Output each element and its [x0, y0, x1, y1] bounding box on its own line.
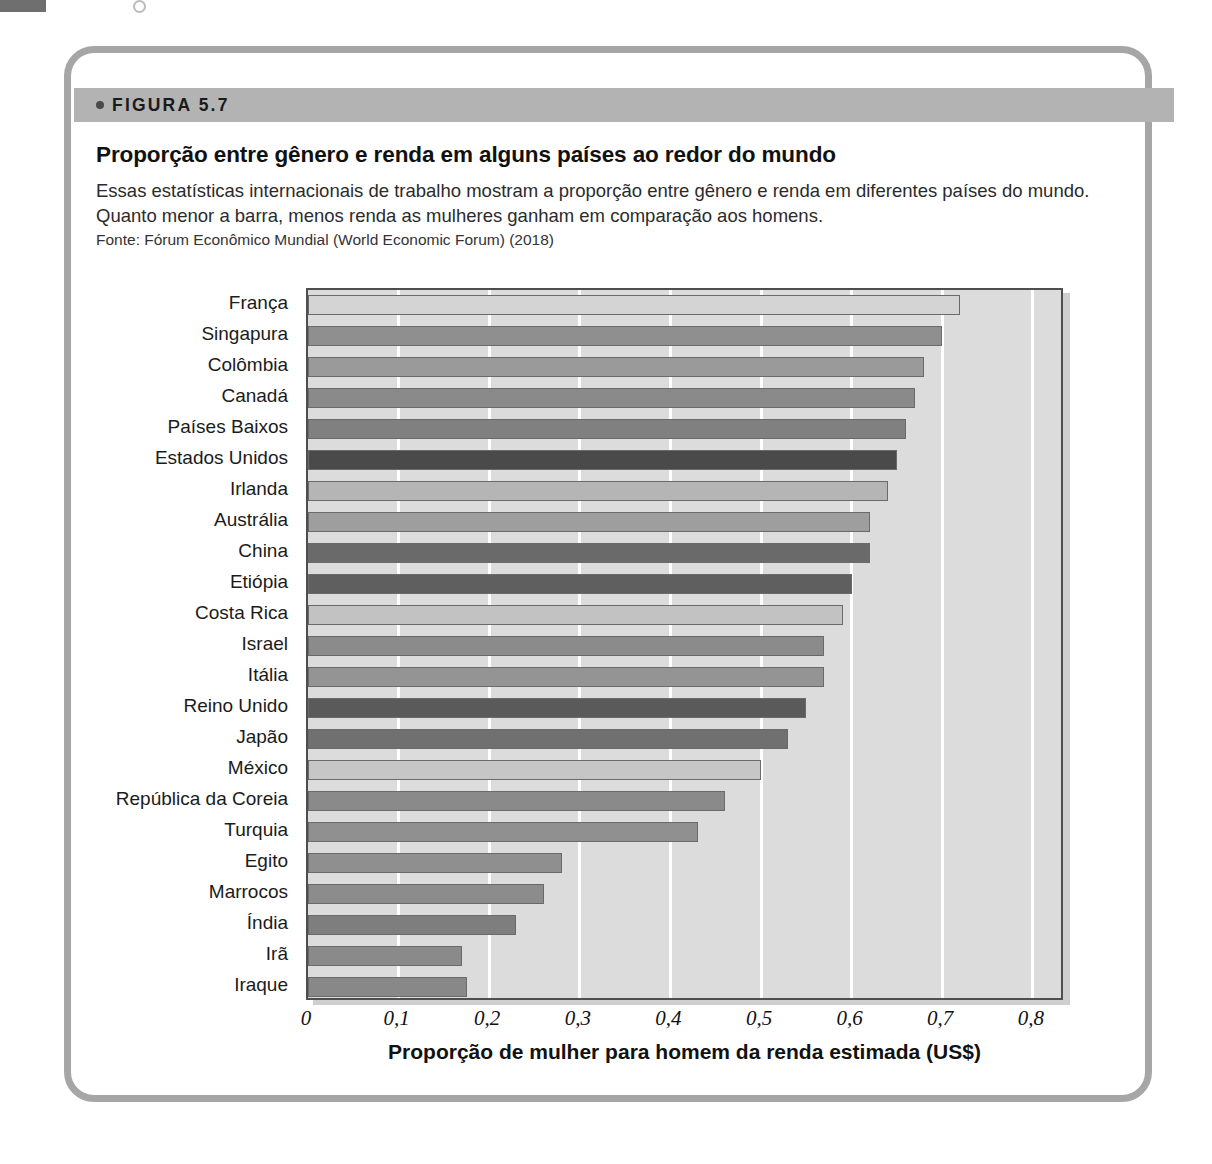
figure-label-band — [74, 88, 1174, 122]
figure-number-label: FIGURA 5.7 — [96, 91, 230, 119]
figure-source: Fonte: Fórum Econômico Mundial (World Ec… — [96, 231, 1116, 249]
page-margin-mark — [0, 0, 46, 12]
figure-description: Essas estatísticas internacionais de tra… — [96, 178, 1116, 228]
bullet-dot-icon — [96, 101, 104, 109]
figure-title: Proporção entre gênero e renda em alguns… — [96, 142, 1106, 168]
page-margin-dot-icon — [133, 0, 146, 13]
figure-number-text: FIGURA 5.7 — [112, 95, 230, 115]
